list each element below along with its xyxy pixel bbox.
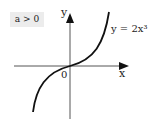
y-axis-label: y xyxy=(61,6,67,19)
cubic-graph xyxy=(0,0,151,129)
x-axis-label: x xyxy=(119,67,125,80)
cubic-curve xyxy=(33,12,109,112)
equation-label: y = 2x³ xyxy=(111,23,147,34)
origin-label: 0 xyxy=(61,69,67,80)
